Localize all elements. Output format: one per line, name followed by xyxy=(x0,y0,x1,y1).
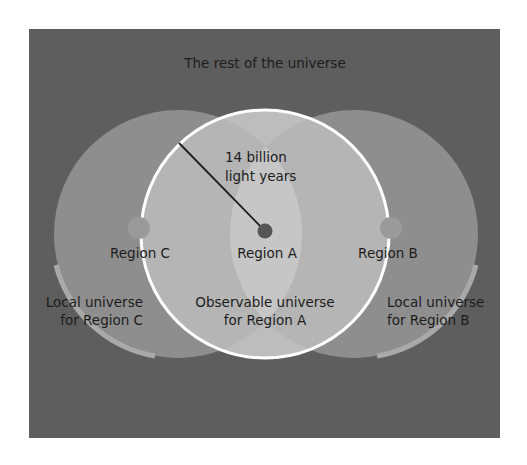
radius-label-line2: light years xyxy=(225,168,296,184)
region-b-caption-line1: Local universe xyxy=(387,294,484,310)
region-a-dot xyxy=(258,224,273,239)
radius-label-line1: 14 billion xyxy=(225,149,287,165)
region-b-label: Region B xyxy=(358,245,418,261)
title-label: The rest of the universe xyxy=(183,55,345,71)
universe-diagram: The rest of the universe 14 billion ligh… xyxy=(0,0,527,465)
region-a-label: Region A xyxy=(237,245,298,261)
region-b-caption-line2: for Region B xyxy=(387,312,470,328)
region-a-caption-line2: for Region A xyxy=(224,312,307,328)
region-b-dot xyxy=(380,217,402,239)
region-c-dot xyxy=(128,217,150,239)
region-c-label: Region C xyxy=(110,245,170,261)
region-c-caption-line2: for Region C xyxy=(60,312,143,328)
region-c-caption-line1: Local universe xyxy=(46,294,143,310)
region-a-caption-line1: Observable universe xyxy=(195,294,334,310)
